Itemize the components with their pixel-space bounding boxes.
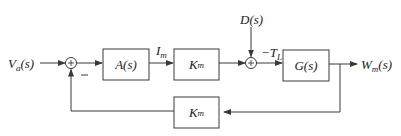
current-signal-label: Im (156, 44, 167, 60)
feedback-block-label: Km (174, 97, 219, 128)
output-label: Wm(s) (361, 58, 392, 74)
torque-constant-block-label: Km (174, 49, 219, 80)
load-torque-label: −TL (261, 46, 282, 62)
disturbance-label: D(s) (240, 13, 263, 26)
plant-block-label: G(s) (283, 50, 329, 81)
input-label: Va(s) (8, 57, 34, 73)
amplifier-block-label: A(s) (103, 49, 149, 80)
